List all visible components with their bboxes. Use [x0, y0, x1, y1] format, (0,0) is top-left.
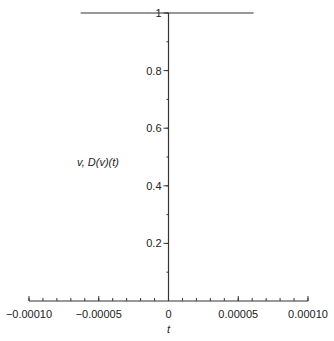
x-tick-label: −0.00010 [6, 308, 52, 320]
y-axis-label: v, D(v)(t) [77, 156, 119, 168]
x-tick-label: 0 [165, 308, 171, 320]
x-tick-label: 0.00010 [288, 308, 328, 320]
y-tick-label: 0.4 [146, 180, 161, 192]
y-tick-label: 0.2 [146, 237, 161, 249]
y-tick-label: 0.8 [146, 65, 161, 77]
x-tick-label: 0.00005 [218, 308, 258, 320]
y-tick-label: 0.6 [146, 122, 161, 134]
x-axis-label: t [167, 323, 171, 335]
y-major-ticks: 0.20.40.60.81 [146, 7, 168, 249]
chart: −0.00010−0.0000500.000050.00010 0.20.40.… [0, 0, 334, 341]
x-major-ticks: −0.00010−0.0000500.000050.00010 [6, 296, 328, 320]
x-tick-label: −0.00005 [76, 308, 122, 320]
